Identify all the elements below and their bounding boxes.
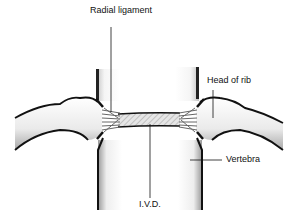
right-rib xyxy=(196,98,283,151)
vertebra-label: Vertebra xyxy=(226,154,260,164)
upper-vertebra xyxy=(96,67,199,101)
radial-ligament-label: Radial ligament xyxy=(90,5,152,15)
anatomy-diagram xyxy=(0,0,295,216)
left-rib xyxy=(15,98,103,151)
radial-ligament-right xyxy=(179,108,197,132)
ivd-label: I.V.D. xyxy=(139,199,161,209)
head-of-rib-label: Head of rib xyxy=(207,75,251,85)
intervertebral-disc xyxy=(118,113,180,127)
